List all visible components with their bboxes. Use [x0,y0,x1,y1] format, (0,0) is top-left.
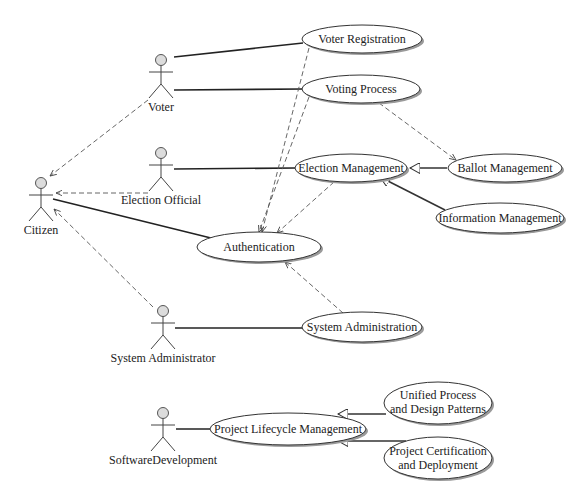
actor-head-icon [158,306,169,317]
actor-label: Voter [148,100,174,114]
actor-system-administrator[interactable]: System Administrator [111,306,216,366]
use-case-label: Election Management [298,161,404,175]
actor-head-icon [156,55,167,66]
use-case-information-management[interactable]: Information Management [436,203,566,235]
use-case-label: Ballot Management [458,161,554,175]
use-case-voter-registration[interactable]: Voter Registration [302,25,424,55]
use-case-label-line-1: Project Certification [389,444,487,458]
assoc-voter-voter-registration [174,43,303,57]
use-case-ballot-management[interactable]: Ballot Management [448,154,564,184]
actor-label: SoftwareDevelopment [109,453,218,467]
assoc-election-official-election-management [174,168,295,169]
use-case-label: Information Management [439,211,563,225]
actor-head-icon [156,148,167,159]
actor-label: System Administrator [111,351,216,365]
dep-voter-citizen [50,100,148,176]
use-case-project-certification[interactable]: Project Certification and Deployment [384,437,494,481]
use-case-label: Voter Registration [318,32,405,46]
use-case-system-administration[interactable]: System Administration [302,312,424,344]
use-case-label-line-1: Unified Process [400,388,477,402]
actor-head-icon [158,408,169,419]
dep-voting-process-ballot-management [379,103,456,160]
actor-head-icon [36,178,47,189]
use-case-label: System Administration [307,320,417,334]
use-case-project-lifecycle-management[interactable]: Project Lifecycle Management [210,413,368,447]
use-case-diagram: Voter Registration Voting Process Electi… [0,0,582,500]
actor-label: Election Official [121,193,202,207]
use-case-unified-process[interactable]: Unified Process and Design Patterns [384,382,494,426]
dep-election-management-authentication [277,182,334,233]
use-case-authentication[interactable]: Authentication [197,232,323,264]
gen-information-election-management [380,177,445,210]
dep-system-administration-authentication [285,262,343,313]
use-case-label: Project Lifecycle Management [214,422,363,436]
use-case-voting-process[interactable]: Voting Process [302,75,422,105]
use-case-label: Voting Process [325,82,397,96]
dep-sysadmin-citizen [54,209,153,307]
use-case-label: Authentication [223,240,294,254]
actor-election-official[interactable]: Election Official [121,148,202,208]
use-case-label-line-2: and Design Patterns [390,402,486,416]
actor-voter[interactable]: Voter [148,55,174,115]
actor-citizen[interactable]: Citizen [24,178,59,238]
use-case-label-line-2: and Deployment [398,458,478,472]
actor-label: Citizen [24,223,59,237]
use-case-election-management[interactable]: Election Management [295,154,409,184]
actor-software-development[interactable]: SoftwareDevelopment [109,408,218,468]
assoc-voter-voting-process [174,89,303,90]
